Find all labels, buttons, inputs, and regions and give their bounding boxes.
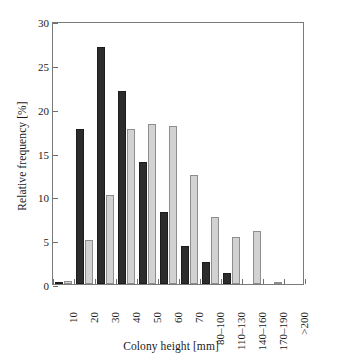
y-tick-label: 15 xyxy=(38,149,49,160)
y-tick-mark xyxy=(53,286,58,287)
y-tick-label: 5 xyxy=(44,237,50,248)
x-tick-mark xyxy=(200,279,201,284)
x-tick-mark xyxy=(116,279,117,284)
x-tick-mark xyxy=(74,279,75,284)
bar-series-1-40 xyxy=(118,91,126,284)
bar-series-2-60 xyxy=(169,126,177,284)
x-tick-mark xyxy=(263,279,264,284)
bar-series-1-50 xyxy=(139,162,147,284)
bar-series-2-50 xyxy=(148,124,156,284)
bar-series-1-20 xyxy=(76,129,84,284)
y-tick-mark xyxy=(53,198,58,199)
bar-series-2-20 xyxy=(85,240,93,284)
x-tick-label: 60 xyxy=(173,312,184,323)
y-tick-mark xyxy=(53,111,58,112)
bar-series-1-60 xyxy=(160,212,168,284)
y-tick-mark xyxy=(53,242,58,243)
bar-series-1-30 xyxy=(97,47,105,284)
bar-series-1-10 xyxy=(55,282,63,284)
x-tick-label: 50 xyxy=(152,312,163,323)
histogram-figure: Relative frequency [%] 05101520253010203… xyxy=(0,0,342,362)
plot-area: 0510152025301020304050607080–100110–1301… xyxy=(52,22,304,285)
bar-series-2-40 xyxy=(127,129,135,284)
x-tick-label: 40 xyxy=(131,312,142,323)
x-tick-mark xyxy=(95,279,96,284)
bar-series-2-140–160 xyxy=(253,231,261,284)
y-tick-mark xyxy=(53,155,58,156)
x-tick-mark xyxy=(284,279,285,284)
plot-inner: 0510152025301020304050607080–100110–1301… xyxy=(53,23,303,284)
bar-series-2-110–130 xyxy=(232,237,240,284)
x-tick-mark xyxy=(53,279,54,284)
y-tick-label: 30 xyxy=(38,18,49,29)
bar-series-1-110–130 xyxy=(223,273,231,284)
x-tick-mark xyxy=(158,279,159,284)
bar-series-2-70 xyxy=(190,175,198,284)
y-tick-label: 20 xyxy=(38,105,49,116)
x-tick-label: 30 xyxy=(110,312,121,323)
bar-series-2-170–190 xyxy=(274,282,282,284)
x-tick-mark xyxy=(305,279,306,284)
x-tick-label: 70 xyxy=(194,312,205,323)
y-tick-label: 10 xyxy=(38,193,49,204)
y-tick-mark xyxy=(53,23,58,24)
bar-series-2-80–100 xyxy=(211,217,219,284)
x-tick-mark xyxy=(242,279,243,284)
y-axis-title: Relative frequency [%] xyxy=(16,56,28,256)
y-tick-label: 25 xyxy=(38,61,49,72)
x-tick-label: >200 xyxy=(299,312,310,335)
x-tick-mark xyxy=(137,279,138,284)
x-axis-title: Colony height [mm] xyxy=(0,340,342,352)
bar-series-2-10 xyxy=(64,281,72,284)
x-tick-mark xyxy=(221,279,222,284)
x-tick-label: 20 xyxy=(89,312,100,323)
y-tick-mark xyxy=(53,67,58,68)
x-tick-mark xyxy=(179,279,180,284)
bar-series-2-30 xyxy=(106,195,114,284)
bar-series-1-80–100 xyxy=(202,262,210,284)
bar-series-1-70 xyxy=(181,246,189,284)
x-tick-label: 10 xyxy=(68,312,79,323)
y-tick-label: 0 xyxy=(44,281,50,292)
